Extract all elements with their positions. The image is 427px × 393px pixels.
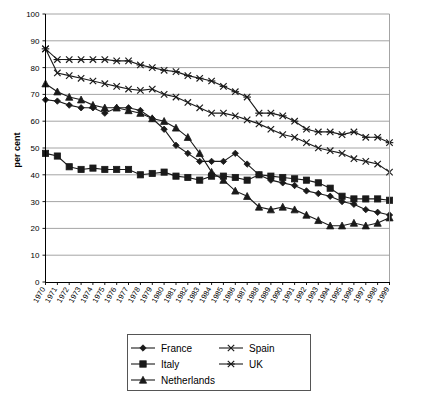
- series-line: [46, 84, 390, 226]
- series-uk: [42, 46, 394, 146]
- y-tick-label: 90: [31, 37, 40, 46]
- y-tick-label: 20: [31, 224, 40, 233]
- x-tick-label: 1999: [375, 286, 391, 305]
- y-tick-label: 40: [31, 171, 40, 180]
- legend-label: Netherlands: [161, 375, 215, 386]
- y-tick-label: 50: [31, 144, 40, 153]
- legend-label: Spain: [249, 343, 275, 354]
- y-axis-label: per cent: [12, 132, 22, 167]
- y-tick-label: 60: [31, 117, 40, 126]
- chart-container: 0102030405060708090100 19701971197219731…: [0, 0, 427, 393]
- legend-box: [128, 335, 311, 391]
- series-line: [46, 153, 390, 200]
- legend-label: France: [161, 343, 193, 354]
- y-tick-label: 10: [31, 251, 40, 260]
- series-italy: [42, 150, 392, 203]
- y-tick-label: 100: [26, 10, 40, 19]
- legend-label: Italy: [161, 359, 179, 370]
- legend-label: UK: [249, 359, 263, 370]
- chart-legend: FranceSpainItalyUKNetherlands: [128, 335, 311, 391]
- series-spain: [42, 46, 392, 176]
- x-axis-ticks: 1970197119721973197419751976197719781979…: [31, 282, 391, 304]
- y-tick-label: 80: [31, 64, 40, 73]
- series-line: [46, 49, 390, 143]
- y-tick-label: 70: [31, 90, 40, 99]
- y-tick-label: 30: [31, 198, 40, 207]
- series-france: [42, 97, 392, 219]
- line-chart: 0102030405060708090100 19701971197219731…: [0, 0, 427, 393]
- series-line: [46, 100, 390, 215]
- gridlines: [46, 14, 390, 255]
